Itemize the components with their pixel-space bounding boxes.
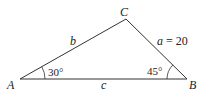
vertex-label-B: B [189,78,197,92]
side-label-a: a = 20 [157,34,188,48]
angle-label-A: 30° [48,66,63,78]
side-label-c: c [101,78,107,92]
angle-arc-A [42,67,45,79]
vertex-label-A: A [6,78,15,92]
angle-arc-B [167,65,173,79]
angle-label-B: 45° [147,65,162,77]
side-label-b: b [70,34,76,48]
side-b [20,19,126,79]
vertex-label-C: C [120,5,129,19]
triangle-diagram: C A B b a = 20 c 30° 45° [0,0,204,96]
